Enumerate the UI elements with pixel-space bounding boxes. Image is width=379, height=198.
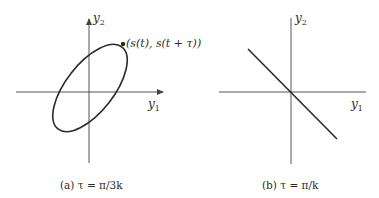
- caption-b: (b) τ = π/k: [262, 179, 319, 191]
- x-axis-label: y1: [350, 97, 363, 113]
- y-axis-label: y2: [294, 11, 307, 27]
- x-axis-label: y1: [147, 97, 160, 113]
- panel-b: y2 y1 (b) τ = π/k: [219, 11, 366, 191]
- phase-diagrams: y2 y1 (s(t), s(t + τ)) (a) τ = π/3k y2 y…: [0, 0, 379, 198]
- point-marker: [121, 42, 125, 46]
- point-label: (s(t), s(t + τ)): [126, 37, 201, 50]
- line-curve: [248, 49, 337, 139]
- caption-a: (a) τ = π/3k: [60, 179, 123, 191]
- panel-a: y2 y1 (s(t), s(t + τ)) (a) τ = π/3k: [16, 11, 201, 191]
- y-axis-label: y2: [92, 11, 105, 27]
